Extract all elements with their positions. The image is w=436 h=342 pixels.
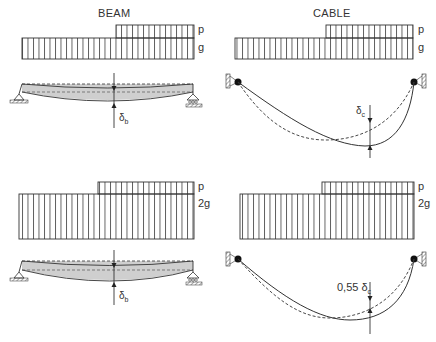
delta-subscript: b bbox=[125, 118, 129, 125]
top-cable-label-g: g bbox=[418, 41, 424, 53]
delta-subscript: c bbox=[362, 111, 366, 118]
top-beam-load-diagram bbox=[22, 25, 194, 59]
wall-anchor-right-icon bbox=[411, 74, 427, 88]
bottom-beam-load-diagram bbox=[19, 182, 194, 239]
pin-support-icon bbox=[10, 272, 28, 281]
top-cable-deflection-label: δc bbox=[356, 105, 365, 118]
deflection-arrow-icon bbox=[368, 105, 373, 158]
top-beam-deflection-label: δb bbox=[119, 112, 128, 125]
bottom-cable-label-p: p bbox=[418, 180, 424, 192]
bottom-beam-label-2g: 2g bbox=[198, 197, 210, 209]
bottom-cable-label-2g: 2g bbox=[418, 197, 430, 209]
delta-subscript: b bbox=[125, 296, 129, 303]
top-cable bbox=[226, 74, 426, 158]
bottom-cable-load-diagram bbox=[240, 182, 414, 239]
top-beam bbox=[10, 73, 202, 128]
top-beam-label-p: p bbox=[198, 23, 204, 35]
roller-support-icon bbox=[186, 94, 202, 107]
wall-anchor-left-icon bbox=[226, 252, 242, 266]
bottom-beam bbox=[10, 250, 202, 305]
roller-support-icon bbox=[186, 272, 202, 285]
bottom-beam-deflection-label: δb bbox=[119, 290, 128, 303]
bottom-cable bbox=[226, 252, 426, 334]
bottom-beam-label-p: p bbox=[198, 180, 204, 192]
delta-subscript: c bbox=[368, 288, 372, 295]
top-cable-load-diagram bbox=[235, 25, 413, 59]
top-beam-label-g: g bbox=[198, 41, 204, 53]
wall-anchor-left-icon bbox=[226, 74, 242, 88]
bottom-cable-deflection-label: 0,55 δc bbox=[337, 281, 371, 295]
factor-value: 0,55 bbox=[337, 281, 358, 293]
pin-support-icon bbox=[10, 94, 28, 103]
top-cable-label-p: p bbox=[418, 23, 424, 35]
